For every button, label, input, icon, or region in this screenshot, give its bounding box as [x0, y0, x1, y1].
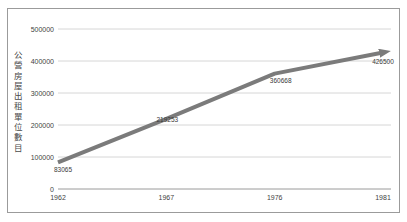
- chart-page: 公營房屋出租單位數目 01000002000003000004000005000…: [0, 0, 407, 222]
- data-line: [58, 53, 383, 163]
- data-point-label: 426500: [372, 58, 394, 65]
- y-tick-label: 100000: [31, 154, 54, 161]
- x-tick-label: 1981: [375, 194, 391, 201]
- data-point-label: 360668: [270, 77, 292, 84]
- y-tick-label: 500000: [31, 26, 54, 33]
- data-point-label: 219253: [156, 116, 178, 123]
- x-tick-label: 1976: [267, 194, 283, 201]
- x-tick-label: 1962: [50, 194, 66, 201]
- y-tick-label: 0: [50, 186, 54, 193]
- line-chart: 0100000200000300000400000500000196219671…: [0, 0, 407, 222]
- y-tick-label: 300000: [31, 90, 54, 97]
- y-tick-label: 200000: [31, 122, 54, 129]
- x-tick-label: 1967: [159, 194, 175, 201]
- y-tick-label: 400000: [31, 58, 54, 65]
- data-point-label: 83065: [54, 166, 72, 173]
